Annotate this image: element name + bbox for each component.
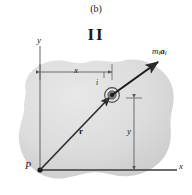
origin-label: P xyxy=(25,161,31,171)
particle-index-label: i xyxy=(96,79,98,87)
figure-panel-b: (b) II y x P x y r i miai xyxy=(0,0,192,195)
figure-caption: (b) xyxy=(0,4,192,14)
y-dimension-label: y xyxy=(127,127,131,136)
force-accel-subscript: i xyxy=(165,49,167,56)
x-dimension-label: x xyxy=(74,66,78,75)
position-vector-label: r xyxy=(79,127,83,136)
inertia-force-label: miai xyxy=(152,47,167,57)
x-axis-label: x xyxy=(179,162,183,171)
roman-numeral-label: II xyxy=(0,26,192,43)
y-axis-label: y xyxy=(37,36,41,45)
